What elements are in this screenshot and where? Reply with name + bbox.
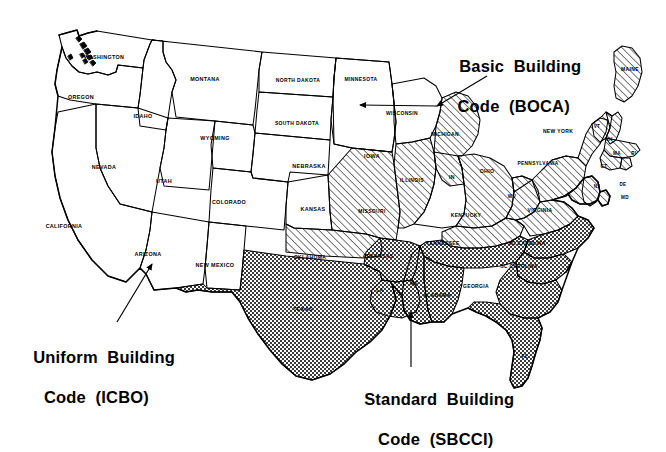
state-label-wi: WISCONSIN: [386, 110, 418, 116]
state-label-nm: NEW MEXICO: [196, 262, 235, 268]
state-mo: [328, 148, 400, 240]
state-label-in: IN: [449, 174, 455, 180]
state-label-sd: SOUTH DAKOTA: [275, 120, 319, 126]
callout-sbcci: Standard Building Code (SBCCI): [345, 369, 514, 452]
callout-sbcci-line1: Standard Building: [364, 390, 514, 408]
state-label-tx: TEXAS: [293, 306, 313, 312]
state-label-me: MAINE: [621, 66, 639, 72]
state-label-ri: RI: [631, 151, 636, 156]
callout-sbcci-line2: Code (SBCCI): [357, 429, 514, 449]
state-label-ky: KENTUCKY: [451, 212, 482, 218]
state-label-nc: NC CAROLINA: [508, 241, 546, 246]
state-label-ga: GEORGIA: [463, 283, 489, 289]
state-label-mn: MINNESOTA: [345, 76, 378, 82]
state-label-ks: KANSAS: [301, 206, 326, 212]
state-label-or: OREGON: [68, 94, 94, 100]
state-label-ms: MS: [410, 280, 419, 286]
state-label-ct: CT: [601, 164, 608, 169]
state-label-ar: ARKANSAS: [362, 253, 393, 259]
state-label-nv: NEVADA: [92, 164, 116, 170]
callout-icbo-line2: Code (ICBO): [18, 387, 175, 407]
state-label-ia: IOWA: [364, 153, 380, 159]
callout-boca-line1: Basic Building: [459, 57, 581, 75]
state-label-la: LA: [376, 287, 383, 293]
state-label-ca: CALIFORNIA: [46, 223, 83, 229]
state-label-de: DE: [619, 182, 626, 187]
state-label-oh: OHIO: [480, 168, 495, 174]
state-label-wv: WV: [508, 194, 517, 199]
state-label-fl: FL: [522, 353, 529, 359]
state-label-mt: MONTANA: [190, 76, 220, 82]
state-label-ne: NEBRASKA: [292, 163, 325, 169]
state-label-md: MD: [621, 195, 629, 200]
state-nm: [205, 222, 246, 290]
state-wy: [211, 121, 255, 172]
state-label-wa: WASHINGTON: [84, 54, 125, 60]
state-label-nh: NH: [605, 137, 613, 142]
callout-boca-line2: Code (BOCA): [446, 96, 581, 116]
state-sd: [255, 92, 333, 140]
state-label-ok: OKLAHOMA: [294, 254, 326, 260]
state-label-wy: WYOMING: [200, 135, 229, 141]
state-label-mo: MISSOURI: [358, 208, 386, 214]
callout-boca: Basic Building Code (BOCA): [440, 36, 581, 157]
state-label-id: IDAHO: [133, 113, 152, 119]
state-label-sc: SC CAROLINA: [500, 264, 537, 269]
state-me: [614, 46, 642, 102]
callout-icbo: Uniform Building Code (ICBO): [14, 327, 175, 448]
state-label-tn: TENNESSEE: [426, 240, 460, 246]
state-label-co: COLORADO: [212, 199, 246, 205]
callout-icbo-line1: Uniform Building: [33, 348, 175, 366]
state-label-nj: NJ: [594, 184, 601, 189]
state-label-nd: NORTH DAKOTA: [276, 77, 320, 83]
state-label-pa: PENNSYLVANIA: [517, 161, 558, 166]
state-label-vt: VT: [594, 124, 601, 129]
state-label-ut: UTAH: [156, 178, 172, 184]
state-nd: [259, 52, 336, 97]
state-label-ma: MA: [613, 151, 621, 156]
state-label-il: ILLINOIS: [400, 177, 424, 183]
state-label-va: VIRGINIA: [527, 207, 552, 213]
state-label-az: ARIZONA: [134, 251, 161, 257]
state-ks: [286, 175, 332, 230]
state-label-al: ALABAMA: [423, 292, 451, 298]
